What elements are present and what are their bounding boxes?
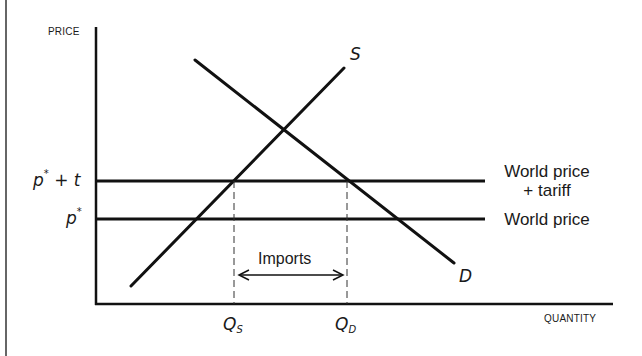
- demand-curve: [195, 60, 454, 263]
- qs-base: Q: [223, 314, 236, 334]
- legend-tariff-line2: + tariff: [493, 181, 601, 200]
- x-axis-title: QUANTITY: [544, 313, 596, 324]
- legend-world-price: World price: [493, 210, 601, 229]
- imports-arrow: [239, 270, 343, 280]
- y-label-world-price: p*: [66, 208, 82, 228]
- y-label-tariff-price: p* + t: [33, 170, 81, 190]
- demand-label: D: [459, 266, 472, 286]
- y-axis-title: PRICE: [48, 26, 80, 37]
- supply-label: S: [350, 44, 361, 64]
- qs-label: QS: [223, 314, 243, 334]
- y-label-tariff-sup: *: [44, 168, 49, 179]
- y-label-world-base: p: [66, 208, 77, 228]
- imports-label: Imports: [258, 250, 311, 268]
- y-label-tariff-rest: + t: [49, 170, 81, 190]
- legend-tariff-line1: World price: [493, 162, 601, 181]
- qd-sub: D: [348, 324, 356, 335]
- y-label-world-sup: *: [77, 206, 82, 217]
- y-label-tariff-base: p: [33, 170, 44, 190]
- qd-label: QD: [335, 314, 356, 334]
- legend-world-price-tariff: World price + tariff: [493, 162, 601, 200]
- supply-curve: [131, 68, 344, 286]
- qs-sub: S: [236, 324, 242, 335]
- qd-base: Q: [335, 314, 348, 334]
